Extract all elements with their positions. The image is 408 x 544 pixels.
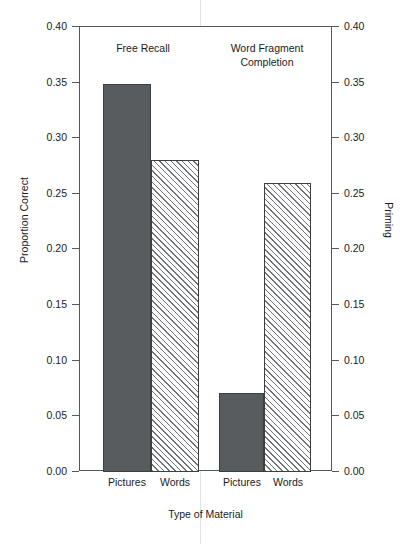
- tick-right-0.40: [332, 26, 339, 27]
- tick-label-right-8: 0.40: [344, 21, 364, 31]
- tick-label-right-7: 0.35: [344, 77, 364, 87]
- tick-left-0.05: [72, 415, 79, 416]
- category-label-word-fragment-completion-pictures: Pictures: [213, 476, 271, 488]
- tick-label-right-4: 0.20: [344, 243, 364, 253]
- bar-free-recall-words: [151, 160, 199, 472]
- tick-right-0.30: [332, 137, 339, 138]
- tick-label-right-3: 0.15: [344, 299, 364, 309]
- tick-left-0.35: [72, 82, 79, 83]
- tick-right-0.35: [332, 82, 339, 83]
- tick-left-0.30: [72, 137, 79, 138]
- tick-label-left-3: 0.15: [47, 299, 67, 309]
- tick-label-right-0: 0.00: [344, 466, 364, 476]
- y-axis-label-left: Proportion Correct: [18, 160, 30, 280]
- tick-label-left-8: 0.40: [47, 21, 67, 31]
- tick-right-0.05: [332, 415, 339, 416]
- tick-label-left-5: 0.25: [47, 188, 67, 198]
- tick-right-0.10: [332, 360, 339, 361]
- tick-right-0.20: [332, 248, 339, 249]
- bar-chart: 0.40 0.35 0.30 0.25 0.20 0.15 0.10 0.05 …: [0, 0, 408, 544]
- group-title-word-fragment-completion: Word Fragment Completion: [208, 41, 326, 69]
- tick-right-0.00: [332, 471, 339, 472]
- tick-left-0.20: [72, 248, 79, 249]
- bar-word-fragment-completion-pictures: [219, 393, 264, 472]
- tick-left-0.00: [72, 471, 79, 472]
- bar-free-recall-pictures: [103, 84, 151, 472]
- category-label-free-recall-words: Words: [152, 476, 198, 488]
- bar-word-fragment-completion-words: [264, 183, 311, 472]
- plot-top-rule: [79, 26, 332, 27]
- tick-label-right-6: 0.30: [344, 132, 364, 142]
- tick-label-right-2: 0.10: [344, 355, 364, 365]
- tick-right-0.25: [332, 193, 339, 194]
- tick-label-left-7: 0.35: [47, 77, 67, 87]
- x-axis-label: Type of Material: [79, 508, 332, 520]
- category-label-free-recall-pictures: Pictures: [98, 476, 156, 488]
- tick-label-left-1: 0.05: [47, 410, 67, 420]
- tick-left-0.25: [72, 193, 79, 194]
- tick-left-0.15: [72, 304, 79, 305]
- tick-left-0.10: [72, 360, 79, 361]
- tick-label-left-6: 0.30: [47, 132, 67, 142]
- category-label-word-fragment-completion-words: Words: [265, 476, 311, 488]
- tick-label-left-0: 0.00: [47, 466, 67, 476]
- tick-label-left-2: 0.10: [47, 355, 67, 365]
- group-title-free-recall: Free Recall: [88, 41, 198, 55]
- y-axis-label-right: Priming: [383, 160, 395, 280]
- tick-label-right-1: 0.05: [344, 410, 364, 420]
- tick-right-0.15: [332, 304, 339, 305]
- tick-label-right-5: 0.25: [344, 188, 364, 198]
- tick-left-0.40: [72, 26, 79, 27]
- tick-label-left-4: 0.20: [47, 243, 67, 253]
